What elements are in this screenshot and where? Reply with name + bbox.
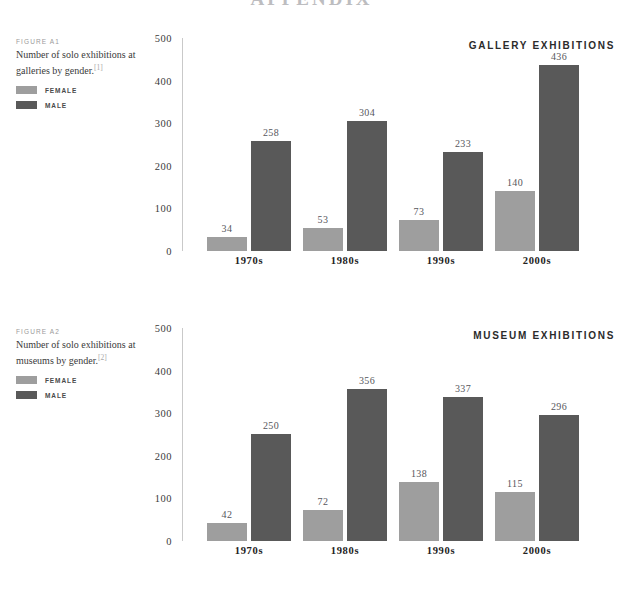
y-axis-tick: 200	[136, 160, 172, 171]
bar-value-label: 115	[507, 478, 523, 489]
figure-a2-plot-area: 422501970s723561980s1383371990s115296200…	[183, 328, 613, 541]
figure-a2-reference: [2]	[98, 353, 107, 362]
bar-male: 436	[539, 65, 579, 251]
figure-a1-y-axis: 0100200300400500	[136, 36, 172, 251]
y-axis-tick: 400	[136, 75, 172, 86]
legend-label-male: MALE	[45, 102, 67, 109]
y-axis-tick: 400	[136, 365, 172, 376]
figure-a1-reference: [1]	[94, 63, 103, 72]
y-axis-tick: 300	[136, 408, 172, 419]
bar-group: 533041980s	[303, 38, 387, 251]
bar-value-label: 337	[455, 383, 471, 394]
bar-group: 1152962000s	[495, 328, 579, 541]
figure-a2-y-axis: 0100200300400500	[136, 326, 172, 541]
x-axis-category-label: 1990s	[399, 255, 483, 266]
legend-label-male: MALE	[45, 392, 67, 399]
y-axis-tick: 100	[136, 493, 172, 504]
bar-value-label: 72	[318, 496, 329, 507]
figure-a1-legend: FEMALE MALE	[16, 84, 136, 111]
bar-value-label: 233	[455, 138, 471, 149]
y-axis-tick: 0	[136, 246, 172, 257]
y-axis-tick: 500	[136, 33, 172, 44]
bar-male: 296	[539, 415, 579, 541]
legend-label-female: FEMALE	[45, 87, 77, 94]
bar-female: 42	[207, 523, 247, 541]
figure-a1-kicker: FIGURE A1	[16, 38, 136, 45]
figure-a2-legend: FEMALE MALE	[16, 374, 136, 401]
figure-a1-caption-text: Number of solo exhibitions at galleries …	[16, 49, 135, 76]
bar-female: 138	[399, 482, 439, 541]
bar-group: 342581970s	[207, 38, 291, 251]
legend-item-female: FEMALE	[16, 84, 136, 96]
figure-a2-kicker: FIGURE A2	[16, 328, 136, 335]
figure-a2-caption-text: Number of solo exhibitions at museums by…	[16, 339, 135, 366]
bar-female: 34	[207, 237, 247, 251]
figure-a2-plot: 0100200300400500 422501970s723561980s138…	[136, 326, 616, 581]
bar-male: 250	[251, 434, 291, 541]
legend-swatch-male	[16, 101, 37, 109]
bar-group: 1383371990s	[399, 328, 483, 541]
y-axis-tick: 0	[136, 536, 172, 547]
bar-group: 732331990s	[399, 38, 483, 251]
bar-value-label: 140	[507, 177, 523, 188]
figure-a1-plot: 0100200300400500 342581970s533041980s732…	[136, 36, 616, 291]
bar-value-label: 356	[359, 375, 375, 386]
bar-female: 73	[399, 220, 439, 251]
legend-item-male: MALE	[16, 389, 136, 401]
bar-value-label: 258	[263, 127, 279, 138]
bar-group: 723561980s	[303, 328, 387, 541]
bar-female: 53	[303, 228, 343, 251]
bar-male: 337	[443, 397, 483, 541]
x-axis-category-label: 1970s	[207, 255, 291, 266]
legend-swatch-female	[16, 86, 37, 94]
figure-a2-caption: Number of solo exhibitions at museums by…	[16, 338, 136, 367]
bar-value-label: 304	[359, 107, 375, 118]
bar-female: 72	[303, 510, 343, 541]
figure-a1-plot-area: 342581970s533041980s732331990s1404362000…	[183, 38, 613, 251]
page-heading: APPENDIX	[0, 0, 623, 10]
x-axis-category-label: 1970s	[207, 545, 291, 556]
y-axis-tick: 500	[136, 323, 172, 334]
bar-female: 115	[495, 492, 535, 541]
legend-label-female: FEMALE	[45, 377, 77, 384]
bar-value-label: 34	[222, 223, 233, 234]
x-axis-category-label: 1980s	[303, 545, 387, 556]
x-axis-category-label: 2000s	[495, 255, 579, 266]
bar-value-label: 138	[411, 468, 427, 479]
bar-male: 356	[347, 389, 387, 541]
figure-a1-caption-block: FIGURE A1 Number of solo exhibitions at …	[16, 38, 136, 114]
bar-value-label: 250	[263, 420, 279, 431]
figure-a1-caption: Number of solo exhibitions at galleries …	[16, 48, 136, 77]
bar-value-label: 53	[318, 214, 329, 225]
bar-value-label: 73	[414, 206, 425, 217]
bar-value-label: 436	[551, 51, 567, 62]
y-axis-tick: 300	[136, 118, 172, 129]
y-axis-tick: 200	[136, 450, 172, 461]
legend-swatch-female	[16, 376, 37, 384]
bar-female: 140	[495, 191, 535, 251]
x-axis-category-label: 1980s	[303, 255, 387, 266]
bar-value-label: 42	[222, 509, 233, 520]
bar-value-label: 296	[551, 401, 567, 412]
figure-a2-caption-block: FIGURE A2 Number of solo exhibitions at …	[16, 328, 136, 404]
legend-swatch-male	[16, 391, 37, 399]
bar-male: 304	[347, 121, 387, 251]
y-axis-tick: 100	[136, 203, 172, 214]
bar-male: 233	[443, 152, 483, 251]
x-axis-category-label: 1990s	[399, 545, 483, 556]
bar-male: 258	[251, 141, 291, 251]
bar-group: 1404362000s	[495, 38, 579, 251]
legend-item-male: MALE	[16, 99, 136, 111]
x-axis-category-label: 2000s	[495, 545, 579, 556]
bar-group: 422501970s	[207, 328, 291, 541]
legend-item-female: FEMALE	[16, 374, 136, 386]
